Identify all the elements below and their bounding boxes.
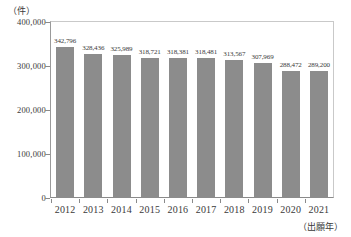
bar-item: 313,567 (220, 22, 248, 198)
x-axis-tick-label: 2016 (164, 204, 192, 215)
bar (254, 63, 272, 199)
x-axis-tick-mark (277, 199, 278, 203)
bar-value-label: 289,200 (308, 61, 330, 69)
x-axis-tick-mark (51, 199, 52, 203)
bar (141, 58, 159, 198)
bar-item: 328,436 (79, 22, 107, 198)
bar (84, 54, 102, 199)
x-axis-tick-mark (79, 199, 80, 203)
x-axis-tick-label: 2013 (79, 204, 107, 215)
bar-value-label: 307,969 (251, 53, 273, 61)
x-axis-tick-mark (136, 199, 137, 203)
y-axis-tick-label: 100,000 (17, 149, 46, 159)
x-axis-tick-label: 2020 (277, 204, 305, 215)
x-axis-tick-label: 2018 (220, 204, 248, 215)
x-axis-tick-mark (248, 199, 249, 203)
y-axis-tick-mark (45, 22, 50, 23)
bar-item: 318,721 (136, 22, 164, 198)
y-axis-tick-label: 300,000 (17, 61, 46, 71)
bar-item: 318,381 (164, 22, 192, 198)
bar-item: 289,200 (305, 22, 333, 198)
bar (225, 60, 243, 198)
bar (56, 47, 74, 198)
bar-item: 342,796 (51, 22, 79, 198)
x-axis-unit-label: （出願年） (298, 220, 343, 233)
x-axis-tick-label: 2015 (136, 204, 164, 215)
y-axis-tick-label: 200,000 (17, 105, 46, 115)
bar (197, 58, 215, 198)
bar-chart: （件） 400,000 300,000 200,000 100,000 0 34… (0, 0, 351, 237)
bar (310, 71, 328, 198)
bar-item: 307,969 (248, 22, 276, 198)
bar (282, 71, 300, 198)
y-axis-tick-label: 400,000 (17, 17, 46, 27)
bar-item: 325,989 (107, 22, 135, 198)
x-axis-tick-label: 2014 (107, 204, 135, 215)
bar-value-label: 328,436 (82, 44, 104, 52)
bar-value-label: 288,472 (280, 61, 302, 69)
x-axis-tick-label: 2012 (51, 204, 79, 215)
bar-value-label: 318,381 (167, 48, 189, 56)
bar-value-label: 342,796 (54, 37, 76, 45)
bar-value-label: 318,721 (139, 48, 161, 56)
x-axis-tick-mark (192, 199, 193, 203)
x-axis-tick-mark (305, 199, 306, 203)
x-axis-tick-mark (107, 199, 108, 203)
x-axis-tick-label: 2017 (192, 204, 220, 215)
y-axis-tick-mark (45, 154, 50, 155)
bar-item: 318,481 (192, 22, 220, 198)
bar-item: 288,472 (277, 22, 305, 198)
y-axis-tick-mark (45, 198, 50, 199)
bar (113, 55, 131, 198)
x-axis-tick-label: 2021 (305, 204, 333, 215)
bar (169, 58, 187, 198)
bar-series: 342,796 328,436 325,989 318,721 318,381 … (51, 22, 333, 198)
x-axis-labels: 2012 2013 2014 2015 2016 2017 2018 2019 … (51, 204, 333, 215)
bar-value-label: 318,481 (195, 48, 217, 56)
y-axis-tick-mark (45, 66, 50, 67)
x-axis-tick-mark (164, 199, 165, 203)
y-axis-unit-label: （件） (8, 4, 35, 17)
x-axis-tick-label: 2019 (248, 204, 276, 215)
bar-value-label: 313,567 (223, 50, 245, 58)
y-axis-tick-mark (45, 110, 50, 111)
bar-value-label: 325,989 (110, 45, 132, 53)
x-axis-tick-mark (220, 199, 221, 203)
